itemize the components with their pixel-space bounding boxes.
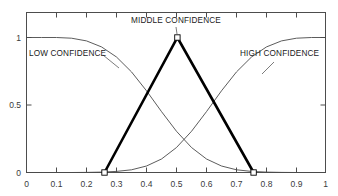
y-tick-label: 0 — [16, 168, 21, 178]
x-tick-label: 1 — [323, 179, 328, 189]
x-tick-label: 0.8 — [261, 179, 273, 189]
x-tick-label: 0.1 — [51, 179, 63, 189]
x-tick-label: 0 — [24, 179, 29, 189]
chart-canvas: 0 0.1 0.2 0.3 0.4 0.5 0.6 0.7 0.8 0.9 1 … — [0, 0, 338, 196]
x-tick-label: 0.2 — [81, 179, 93, 189]
fuzzy-membership-chart: 0 0.1 0.2 0.3 0.4 0.5 0.6 0.7 0.8 0.9 1 … — [0, 0, 338, 196]
y-tick-label: 0.5 — [9, 100, 21, 110]
x-tick-label: 0.6 — [201, 179, 213, 189]
chart-background — [0, 0, 338, 196]
annotation-high-confidence: HIGH CONFIDENCE — [240, 49, 320, 58]
x-tick-label: 0.7 — [231, 179, 243, 189]
x-tick-label: 0.4 — [141, 179, 153, 189]
x-tick-label: 0.5 — [171, 179, 183, 189]
y-tick-label: 1 — [16, 33, 21, 43]
vertex-marker-right — [251, 170, 256, 175]
vertex-marker-left — [102, 170, 107, 175]
vertex-marker-apex — [175, 35, 180, 40]
annotation-middle-confidence: MIDDLE CONFIDENCE — [131, 16, 221, 25]
x-tick-label: 0.9 — [291, 179, 303, 189]
annotation-low-confidence: LOW CONFIDENCE — [29, 49, 107, 58]
x-tick-label: 0.3 — [111, 179, 123, 189]
